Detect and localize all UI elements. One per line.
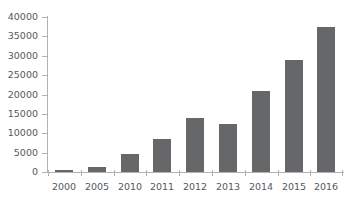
y-axis-tick (42, 17, 48, 18)
x-axis-tick-label: 2012 (177, 181, 213, 192)
bar (317, 27, 335, 172)
y-axis-tick (42, 133, 48, 134)
x-axis-tick-label: 2010 (112, 181, 148, 192)
y-axis-tick (42, 56, 48, 57)
x-axis-line (47, 172, 344, 173)
y-axis-tick-label: 10000 (8, 128, 38, 138)
x-axis-tick-label: 2005 (79, 181, 115, 192)
x-axis-tick (48, 170, 49, 176)
x-axis-tick-label: 2000 (46, 181, 82, 192)
bar (219, 124, 237, 172)
y-axis-tick-label: 40000 (8, 12, 38, 22)
x-axis-tick (146, 170, 147, 176)
bar-chart: 0500010000150002000025000300003500040000… (0, 0, 350, 204)
y-axis-tick (42, 95, 48, 96)
x-axis-tick-label: 2013 (210, 181, 246, 192)
y-axis-tick (42, 153, 48, 154)
bar (88, 167, 106, 172)
y-axis-tick-label: 30000 (8, 51, 38, 61)
y-axis-tick-label: 20000 (8, 90, 38, 100)
x-axis-tick (212, 170, 213, 176)
x-axis-tick (342, 170, 343, 176)
y-axis-tick (42, 114, 48, 115)
bar (285, 60, 303, 172)
x-axis-tick-label: 2016 (308, 181, 344, 192)
x-axis-tick-label: 2014 (243, 181, 279, 192)
y-axis-tick-label: 5000 (14, 148, 38, 158)
y-axis-tick-label: 15000 (8, 109, 38, 119)
x-axis-tick (310, 170, 311, 176)
x-axis-tick-label: 2011 (144, 181, 180, 192)
x-axis-tick (81, 170, 82, 176)
y-axis-tick (42, 75, 48, 76)
bar (252, 91, 270, 172)
bar (186, 118, 204, 172)
y-axis-tick-label: 0 (32, 167, 38, 177)
x-axis-tick (245, 170, 246, 176)
x-axis-tick (278, 170, 279, 176)
x-axis-tick-label: 2015 (276, 181, 312, 192)
y-axis-tick-label: 25000 (8, 70, 38, 80)
bar (153, 139, 171, 172)
x-axis-tick (114, 170, 115, 176)
bar (55, 170, 73, 172)
y-axis-tick-label: 35000 (8, 31, 38, 41)
x-axis-tick (179, 170, 180, 176)
y-axis-tick (42, 36, 48, 37)
bar (121, 154, 139, 172)
